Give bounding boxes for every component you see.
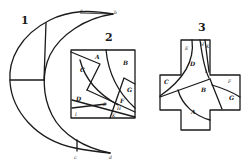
cross-label-d: D [189, 60, 196, 67]
cross-label-k: K [205, 44, 210, 49]
diagram-canvas: 1 a b c d 2 A B C D E [0, 0, 251, 165]
piece-label-e: E [102, 102, 107, 107]
cross-label-f: F [227, 79, 232, 84]
cross-label-h: H [199, 42, 204, 47]
figure-1-number: 1 [21, 14, 29, 27]
cross-label-i: I [204, 69, 207, 74]
piece-label-f: F [119, 97, 125, 104]
figure-2-square: 2 A B C D E F G H I K [71, 31, 135, 118]
piece-label-a: A [94, 53, 100, 60]
cross-label-a: A [190, 108, 196, 115]
point-label-b: b [114, 10, 117, 15]
piece-label-g: G [127, 86, 132, 93]
figure-3-number: 3 [198, 21, 206, 34]
figure-1-crescent: 1 a b c d [10, 8, 117, 160]
cross-arc-a [178, 90, 210, 120]
piece-label-h: H [116, 106, 121, 111]
cross-label-c: C [164, 78, 169, 85]
cross-label-b: B [200, 86, 206, 93]
crescent-inner-arc [44, 14, 113, 153]
piece-label-k: K [111, 113, 116, 118]
cross-label-g: G [229, 94, 234, 101]
piece-label-b: B [122, 59, 128, 66]
crescent-outer-arc [10, 12, 113, 153]
figure-3-cross: 3 E H K D I C B F G A [160, 21, 240, 130]
figure-2-number: 2 [105, 31, 113, 44]
piece-label-i: I [74, 112, 77, 117]
point-label-a: a [80, 8, 83, 13]
cross-cut-g [210, 79, 222, 109]
point-label-d: d [109, 155, 112, 160]
piece-label-d: D [75, 95, 82, 102]
crescent-puzzle-diagram: 1 a b c d 2 A B C D E [0, 0, 251, 165]
cross-label-e: E [184, 46, 189, 51]
piece-label-c: C [80, 66, 85, 73]
point-label-c: c [74, 155, 77, 160]
